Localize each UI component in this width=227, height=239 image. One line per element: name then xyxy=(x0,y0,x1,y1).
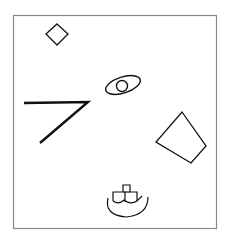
figure-frame xyxy=(14,16,217,229)
figure-canvas xyxy=(0,0,227,239)
